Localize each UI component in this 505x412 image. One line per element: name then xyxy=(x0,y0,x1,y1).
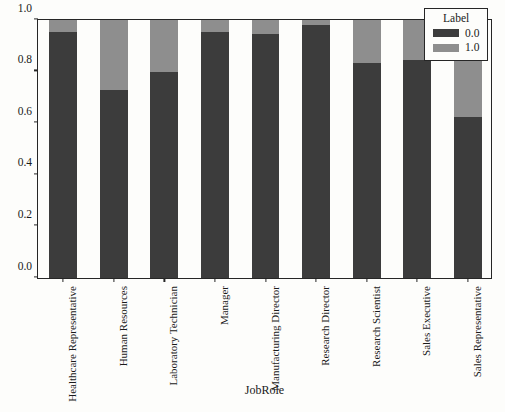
x-axis-tick-label: Manager xyxy=(219,286,230,325)
y-axis-tick-label: 0.4 xyxy=(18,158,32,170)
y-axis-tick-label: 0.0 xyxy=(18,261,32,273)
bar-segment[interactable] xyxy=(302,20,330,25)
bar-group[interactable] xyxy=(353,20,381,278)
legend-swatch xyxy=(433,44,459,52)
bar-segment[interactable] xyxy=(150,72,178,278)
y-axis-tick-label: 0.8 xyxy=(18,54,32,66)
y-axis-tick-label: 0.6 xyxy=(18,106,32,118)
bar-segment[interactable] xyxy=(201,20,229,32)
y-axis-tick-mark xyxy=(34,173,38,174)
x-axis-tick-label: Sales Representative xyxy=(472,286,483,377)
x-axis-tick-mark xyxy=(366,278,367,282)
bar-group[interactable] xyxy=(49,20,77,278)
y-axis-tick-mark xyxy=(34,18,38,19)
bar-segment[interactable] xyxy=(454,117,482,278)
bar-segment[interactable] xyxy=(302,25,330,278)
bar-segment[interactable] xyxy=(252,20,280,34)
x-axis-tick-mark xyxy=(315,278,316,282)
x-axis-tick-mark xyxy=(113,278,114,282)
bar-segment[interactable] xyxy=(100,90,128,278)
x-axis-tick-mark xyxy=(265,278,266,282)
x-axis-tick-label: Laboratory Technician xyxy=(168,286,179,386)
bar-group[interactable] xyxy=(252,20,280,278)
x-axis-tick-mark xyxy=(164,278,165,282)
legend-item[interactable]: 1.0 xyxy=(433,42,479,54)
chart-legend: Label 0.01.0 xyxy=(424,8,488,61)
bar-segment[interactable] xyxy=(403,60,431,278)
y-axis-tick-label: 0.2 xyxy=(18,209,32,221)
bar-segment[interactable] xyxy=(201,32,229,278)
bar-segment[interactable] xyxy=(150,20,178,72)
bar-group[interactable] xyxy=(150,20,178,278)
legend-title: Label xyxy=(433,13,479,25)
legend-item[interactable]: 0.0 xyxy=(433,28,479,40)
bar-segment[interactable] xyxy=(49,20,77,32)
x-axis-tick-label: Manufacturing Director xyxy=(270,286,281,391)
bar-segment[interactable] xyxy=(49,32,77,278)
y-axis-tick-mark xyxy=(34,225,38,226)
legend-items: 0.01.0 xyxy=(433,28,479,54)
x-axis-tick-mark xyxy=(417,278,418,282)
bar-segment[interactable] xyxy=(100,20,128,90)
bar-group[interactable] xyxy=(302,20,330,278)
bar-segment[interactable] xyxy=(353,63,381,278)
y-axis-tick-mark xyxy=(34,276,38,277)
x-axis-title: JobRole xyxy=(37,383,492,398)
legend-swatch xyxy=(433,29,459,37)
y-axis-tick-label: 1.0 xyxy=(18,3,32,15)
y-axis-tick-mark xyxy=(34,121,38,122)
x-axis-tick-label: Human Resources xyxy=(118,286,129,366)
legend-label: 0.0 xyxy=(465,28,479,40)
bar-segment[interactable] xyxy=(353,20,381,63)
x-axis-tick-label: Research Director xyxy=(320,286,331,366)
bar-segment[interactable] xyxy=(252,34,280,278)
chart-figure: 0.00.20.40.60.81.0Healthcare Representat… xyxy=(0,0,505,412)
x-axis-tick-label: Research Scientist xyxy=(371,286,382,367)
bar-group[interactable] xyxy=(201,20,229,278)
bar-group[interactable] xyxy=(100,20,128,278)
legend-label: 1.0 xyxy=(465,42,479,54)
x-axis-tick-mark xyxy=(63,278,64,282)
y-axis-tick-mark xyxy=(34,70,38,71)
x-axis-tick-mark xyxy=(214,278,215,282)
x-axis-tick-label: Sales Executive xyxy=(421,286,432,356)
x-axis-tick-mark xyxy=(467,278,468,282)
